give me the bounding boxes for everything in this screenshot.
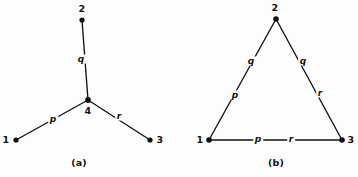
node-label-2-b: 2 [272,3,279,13]
edge-label-p-bottom-b: p [253,135,263,144]
diagram-panel-b [0,0,358,177]
node-label-1-b: 1 [197,135,204,145]
edge-label-r-bottom-b: r [287,135,295,144]
edge-label-p-left-b: p [230,91,240,100]
node-dot-2-b [273,16,279,22]
edge-label-r-right-b: r [316,89,324,98]
node-label-3-b: 3 [348,135,355,145]
node-dot-3-b [339,137,345,143]
caption-panel-b: (b) [268,158,284,168]
edge-2-3-b [276,19,342,140]
edge-label-q-right-b: q [298,57,308,66]
edge-label-q-left-b: q [246,57,256,66]
edge-1-2-b [209,19,276,140]
figure-root: 1 2 3 4 q p r (a) 1 2 3 q p q r p r (b) [0,0,358,177]
node-dot-1-b [206,137,212,143]
